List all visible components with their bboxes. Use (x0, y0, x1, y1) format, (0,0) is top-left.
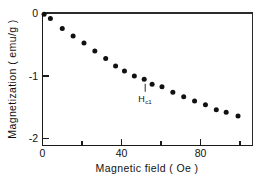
data-point (181, 94, 186, 99)
y-tick-label-minus1: -1 (29, 70, 38, 82)
data-point (170, 90, 175, 95)
hc1-annotation: H c1 (138, 84, 152, 106)
plot-frame (43, 13, 254, 146)
data-point (132, 74, 137, 79)
x-tick-label-40: 40 (116, 147, 128, 159)
figure-container: 0 -1 -2 0 40 80 Magnetic field ( Oe ) Ma… (0, 0, 267, 180)
y-tick-label-0: 0 (32, 7, 38, 19)
x-axis-title: Magnetic field ( Oe ) (96, 162, 199, 174)
hc1-label-subscript: c1 (145, 98, 152, 105)
hc1-label-text: H (138, 94, 145, 104)
data-point (122, 69, 127, 74)
y-axis-title: Magnetization ( emu/g ) (6, 19, 18, 139)
data-point (150, 82, 155, 87)
data-point (159, 84, 164, 89)
data-point (103, 56, 108, 61)
data-point (113, 64, 118, 69)
data-point (142, 77, 147, 82)
data-point (92, 49, 97, 54)
x-tick-label-80: 80 (195, 147, 207, 159)
data-point (203, 102, 208, 107)
y-tick-label-minus2: -2 (29, 132, 38, 144)
data-point (42, 12, 47, 17)
x-tick-labels: 0 40 80 (40, 147, 207, 159)
data-point (60, 26, 65, 31)
data-point (81, 40, 86, 45)
data-point (224, 110, 229, 115)
data-point (214, 107, 219, 112)
data-point (192, 99, 197, 104)
y-axis-ticks (43, 14, 50, 139)
x-axis-ticks (43, 139, 241, 146)
x-tick-label-0: 0 (40, 147, 46, 159)
data-point (48, 16, 53, 21)
magnetization-vs-field-chart: 0 -1 -2 0 40 80 Magnetic field ( Oe ) Ma… (0, 0, 267, 180)
data-point (71, 34, 76, 39)
data-point (236, 114, 241, 119)
y-tick-labels: 0 -1 -2 (29, 7, 39, 144)
